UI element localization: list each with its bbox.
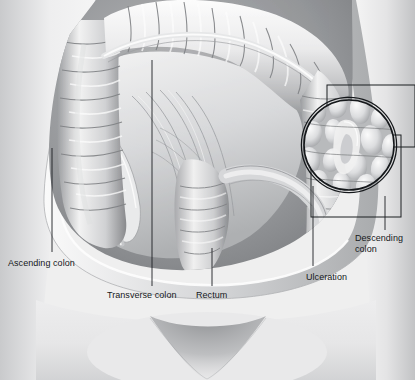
label-transverse-colon: Transverse colon [107, 290, 177, 301]
label-descending-colon: Descending colon [355, 233, 403, 254]
label-ascending-colon: Ascending colon [8, 258, 75, 269]
abdomen-colon-illustration [0, 0, 415, 380]
label-rectum: Rectum [196, 290, 227, 301]
label-ulceration: Ulceration [306, 272, 347, 283]
ascending-colon-structure [57, 20, 126, 248]
illustration-canvas: Ascending colon Transverse colon Rectum … [0, 0, 415, 380]
